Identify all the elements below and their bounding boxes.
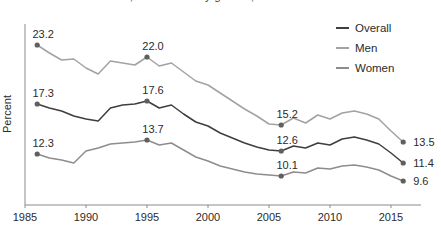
x-tick-label: 1990 [74,211,98,223]
data-point-overall-1995 [144,98,149,103]
data-point-women-1986 [35,151,40,156]
x-tick-label: 2005 [257,211,281,223]
data-point-men-2016 [401,139,406,144]
legend-item-overall: Overall [336,21,394,35]
x-tick-label: 2010 [318,211,342,223]
x-tick-label: 2000 [196,211,220,223]
data-label-overall-2016: 11.4 [413,157,434,169]
data-label-women-2006: 10.1 [276,159,297,171]
legend-line-sample-icon [336,47,349,49]
data-point-women-2016 [401,178,406,183]
legend-line-sample-icon [336,67,349,69]
legend: OverallMenWomen [336,21,394,75]
legend-label-men: Men [355,41,377,55]
data-point-overall-1986 [35,101,40,106]
series-line-overall [37,101,403,163]
data-label-men-1986: 23.2 [32,28,53,40]
x-tick-label: 1995 [135,211,159,223]
smoking-trend-figure: …, overall and by gender, 1985–2017 Perc… [0,0,441,226]
data-label-men-2016: 13.5 [413,136,434,148]
legend-label-overall: Overall [355,21,391,35]
data-point-men-1995 [144,54,149,59]
x-tick-label: 1985 [13,211,37,223]
data-point-men-2006 [279,122,284,127]
data-label-women-1986: 12.3 [32,137,53,149]
legend-label-women: Women [355,61,394,75]
data-label-women-2016: 9.6 [413,175,428,187]
data-point-women-1995 [144,137,149,142]
data-point-women-2006 [279,173,284,178]
data-label-overall-2006: 12.6 [276,134,297,146]
data-label-women-1995: 13.7 [142,123,163,135]
data-point-overall-2016 [401,160,406,165]
x-tick-label: 2015 [379,211,403,223]
data-label-men-1995: 22.0 [142,40,163,52]
data-point-men-1986 [35,42,40,47]
legend-item-men: Men [336,41,394,55]
data-label-overall-1995: 17.6 [142,84,163,96]
data-label-overall-1986: 17.3 [32,87,53,99]
data-label-men-2006: 15.2 [276,108,297,120]
series-line-women [37,140,403,181]
data-point-overall-2006 [279,148,284,153]
legend-item-women: Women [336,61,394,75]
legend-line-sample-icon [336,27,349,29]
